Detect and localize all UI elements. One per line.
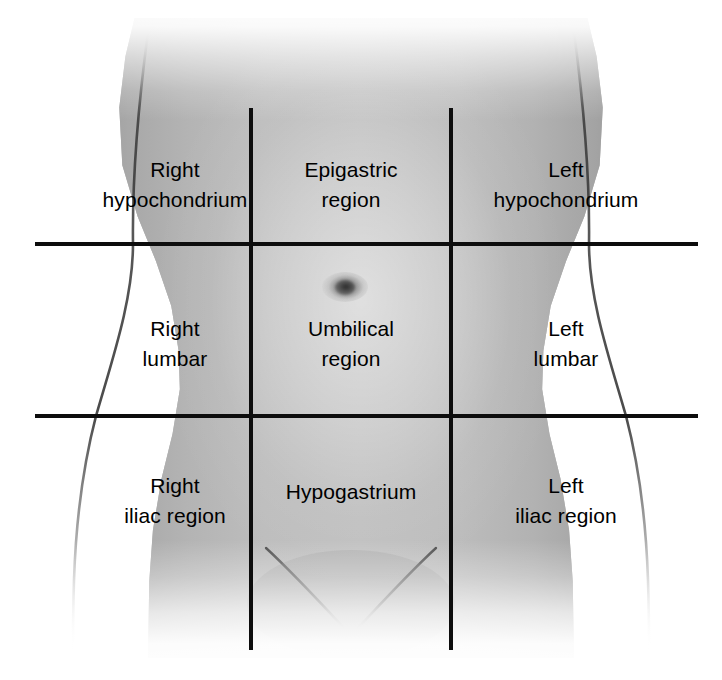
region-label-left-hypochondrium: Left hypochondrium bbox=[436, 155, 696, 215]
grid-horizontal-line-subcostal bbox=[35, 242, 698, 246]
abdominal-regions-figure: Right hypochondrium Epigastric region Le… bbox=[0, 0, 722, 680]
grid-horizontal-line-intertubercular bbox=[35, 414, 698, 418]
umbilicus-center bbox=[335, 280, 355, 295]
region-label-left-lumbar: Left lumbar bbox=[436, 314, 696, 374]
region-label-left-iliac-region: Left iliac region bbox=[436, 471, 696, 531]
fade-top bbox=[0, 0, 722, 120]
fade-bottom bbox=[0, 540, 722, 680]
